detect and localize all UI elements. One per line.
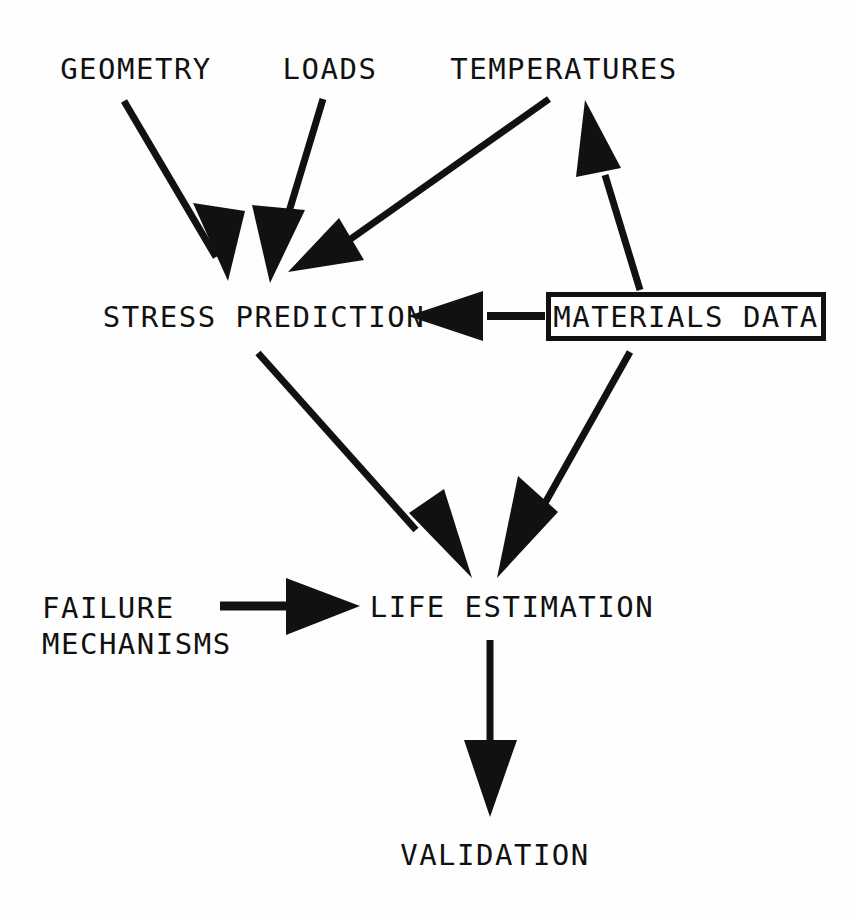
edge-materials-to-life	[497, 352, 630, 578]
edge-temperatures-to-stress	[288, 99, 549, 272]
node-failure-mechanisms: FAILURE MECHANISMS	[42, 590, 232, 662]
node-failure-line-2: MECHANISMS	[42, 626, 232, 662]
node-geometry: GEOMETRY	[60, 52, 212, 86]
edge-stress-to-life	[258, 353, 472, 578]
node-materials-data-label: MATERIALS DATA	[553, 301, 818, 333]
node-temperatures: TEMPERATURES	[450, 52, 678, 86]
node-life-estimation: LIFE ESTIMATION	[370, 590, 654, 624]
node-stress-prediction: STRESS PREDICTION	[103, 300, 425, 334]
edge-failure-to-life	[220, 578, 360, 635]
node-validation: VALIDATION	[400, 838, 590, 872]
edge-geometry-to-stress	[124, 101, 245, 281]
edge-materials-to-temperatures	[576, 100, 640, 290]
node-materials-data-box: MATERIALS DATA	[546, 292, 826, 341]
flowchart-arrows-layer	[0, 0, 856, 919]
flowchart-canvas: GEOMETRY LOADS TEMPERATURES STRESS PREDI…	[0, 0, 856, 919]
edge-materials-to-stress	[408, 291, 545, 341]
node-loads: LOADS	[283, 52, 378, 86]
edge-life-to-validation	[464, 640, 517, 817]
node-failure-line-1: FAILURE	[42, 590, 232, 626]
